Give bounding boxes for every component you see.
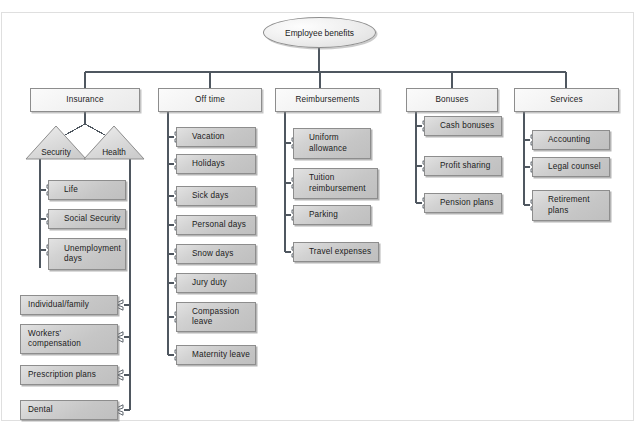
root-node-employee-benefits[interactable]: Employee benefits — [263, 17, 376, 48]
leaf-label-cash-bonuses: Cash bonuses — [440, 121, 494, 132]
leaf-label-profit-sharing: Profit sharing — [440, 161, 491, 172]
leaf-node-social-security[interactable]: Social Security — [48, 209, 126, 229]
leaf-node-profit-sharing[interactable]: Profit sharing — [424, 156, 502, 176]
leaf-node-retirement-plans[interactable]: Retirement plans — [532, 190, 610, 221]
leaf-node-pension-plans[interactable]: Pension plans — [424, 193, 502, 213]
leaf-node-individual-family[interactable]: Individual/family — [20, 295, 118, 315]
branch-label-insurance: Insurance — [66, 95, 103, 106]
branch-label-services: Services — [550, 95, 583, 106]
leaf-label-compassion-leave: Compassion leave — [192, 307, 239, 328]
leaf-node-vacation[interactable]: Vacation — [176, 127, 256, 147]
leaf-node-snow-days[interactable]: Snow days — [176, 244, 256, 264]
leaf-node-sick-days[interactable]: Sick days — [176, 186, 256, 206]
leaf-label-uniform-allowance: Uniform allowance — [309, 133, 347, 154]
leaf-node-travel-expenses[interactable]: Travel expenses — [293, 242, 379, 262]
leaf-label-social-security: Social Security — [64, 214, 121, 225]
leaf-label-individual-family: Individual/family — [28, 300, 89, 311]
leaf-label-life: Life — [64, 185, 78, 196]
leaf-label-legal-counsel: Legal counsel — [548, 162, 601, 173]
subgroup-label-security: Security — [26, 148, 86, 157]
leaf-node-legal-counsel[interactable]: Legal counsel — [532, 157, 610, 177]
branch-node-off-time[interactable]: Off time — [158, 88, 262, 112]
leaf-node-dental[interactable]: Dental — [20, 400, 118, 420]
leaf-label-vacation: Vacation — [192, 132, 225, 143]
branch-node-bonuses[interactable]: Bonuses — [406, 88, 498, 112]
leaf-node-cash-bonuses[interactable]: Cash bonuses — [424, 116, 502, 136]
leaf-node-maternity-leave[interactable]: Maternity leave — [176, 345, 256, 365]
leaf-label-travel-expenses: Travel expenses — [309, 247, 371, 258]
leaf-label-dental: Dental — [28, 405, 53, 416]
branch-label-reimbursements: Reimbursements — [295, 95, 359, 106]
arrowheads-health-children — [113, 300, 124, 415]
leaf-node-accounting[interactable]: Accounting — [532, 130, 610, 150]
subgroup-node-health[interactable]: Health — [84, 126, 144, 159]
leaf-node-personal-days[interactable]: Personal days — [176, 215, 256, 235]
leaf-label-sick-days: Sick days — [192, 191, 229, 202]
leaf-label-pension-plans: Pension plans — [440, 198, 494, 209]
subgroup-label-health: Health — [84, 148, 144, 157]
branch-node-services[interactable]: Services — [514, 88, 619, 112]
leaf-label-prescription-plans: Prescription plans — [28, 370, 96, 381]
leaf-node-parking[interactable]: Parking — [293, 205, 371, 225]
root-node-label: Employee benefits — [285, 28, 354, 38]
leaf-node-prescription-plans[interactable]: Prescription plans — [20, 365, 118, 385]
leaf-node-life[interactable]: Life — [48, 180, 126, 200]
branch-label-off-time: Off time — [195, 95, 225, 106]
leaf-node-tuition-reimbursement[interactable]: Tuition reimbursement — [293, 168, 378, 199]
leaf-label-unemployment-days: Unemployment days — [64, 244, 121, 265]
leaf-label-retirement-plans: Retirement plans — [548, 195, 590, 216]
diagram-canvas: Employee benefits Insurance Off time Rei… — [0, 0, 636, 429]
leaf-node-uniform-allowance[interactable]: Uniform allowance — [293, 128, 371, 159]
leaf-node-workers-compensation[interactable]: Workers' compensation — [20, 324, 118, 354]
leaf-label-maternity-leave: Maternity leave — [192, 350, 250, 361]
branch-label-bonuses: Bonuses — [435, 95, 468, 106]
leaf-node-holidays[interactable]: Holidays — [176, 154, 256, 174]
subgroup-node-security[interactable]: Security — [26, 126, 86, 159]
leaf-node-unemployment-days[interactable]: Unemployment days — [48, 238, 126, 270]
leaf-label-tuition-reimbursement: Tuition reimbursement — [309, 173, 366, 194]
leaf-label-parking: Parking — [309, 210, 338, 221]
leaf-label-jury-duty: Jury duty — [192, 278, 227, 289]
leaf-label-holidays: Holidays — [192, 159, 225, 170]
leaf-label-personal-days: Personal days — [192, 220, 246, 231]
leaf-label-accounting: Accounting — [548, 135, 590, 146]
leaf-label-workers-compensation: Workers' compensation — [28, 329, 81, 350]
leaf-label-snow-days: Snow days — [192, 249, 234, 260]
branch-node-insurance[interactable]: Insurance — [30, 88, 140, 112]
leaf-node-compassion-leave[interactable]: Compassion leave — [176, 302, 256, 332]
leaf-node-jury-duty[interactable]: Jury duty — [176, 273, 256, 293]
branch-node-reimbursements[interactable]: Reimbursements — [275, 88, 380, 112]
